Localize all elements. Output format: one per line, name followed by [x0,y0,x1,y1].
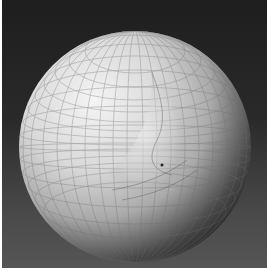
sphere-render [2,0,267,268]
render-viewport [2,0,267,268]
